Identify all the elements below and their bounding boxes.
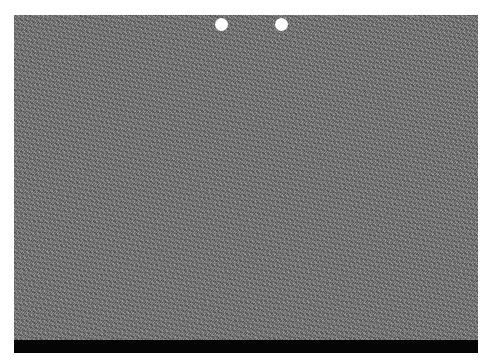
right-guide-dot (275, 18, 288, 31)
bottom-black-band (14, 340, 478, 353)
left-guide-dot (215, 18, 228, 31)
stereogram-image (14, 15, 478, 340)
